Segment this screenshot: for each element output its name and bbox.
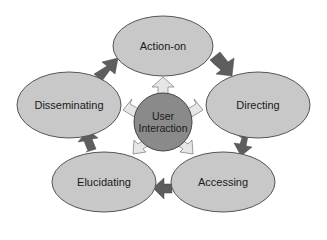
label-elucidating: Elucidating bbox=[77, 176, 131, 188]
label-accessing: Accessing bbox=[198, 176, 248, 188]
label-action-on: Action-on bbox=[140, 40, 186, 52]
label-user-interaction: User Interaction bbox=[138, 110, 187, 134]
label-disseminating: Disseminating bbox=[34, 99, 103, 111]
label-user: User bbox=[138, 110, 187, 122]
arrow-action-to-directing bbox=[210, 52, 234, 76]
label-interaction: Interaction bbox=[138, 122, 187, 134]
label-directing: Directing bbox=[236, 99, 279, 111]
